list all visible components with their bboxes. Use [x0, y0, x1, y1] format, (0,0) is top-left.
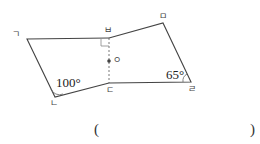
- answer-close-paren: ): [250, 122, 255, 137]
- vertex-label-mieum: ㅁ: [159, 12, 167, 21]
- center-point-dot: [107, 59, 111, 63]
- angle-label-rieul: 65°: [166, 68, 184, 81]
- center-point-label: ㅇ: [113, 56, 121, 65]
- vertex-label-bieup: ㅂ: [104, 26, 112, 35]
- angle-label-nieun: 100°: [56, 76, 81, 89]
- right-angle-mark: [101, 39, 109, 46]
- vertex-label-rieul: ㄹ: [188, 85, 196, 94]
- answer-open-paren: (: [94, 122, 99, 137]
- point-symmetric-figure: [0, 0, 260, 144]
- vertex-label-digeut: ㄷ: [106, 86, 114, 95]
- vertex-label-giyeok: ㄱ: [12, 30, 20, 39]
- vertex-label-nieun: ㄴ: [50, 99, 58, 108]
